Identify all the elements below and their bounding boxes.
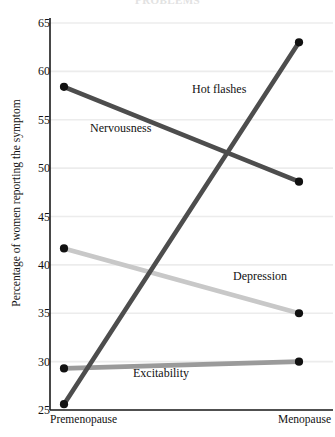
series-line-hot-flashes xyxy=(64,42,299,404)
datapoint-depression-premenopause xyxy=(60,244,68,252)
datapoint-excitability-menopause xyxy=(295,358,303,366)
datapoint-depression-menopause xyxy=(295,309,303,317)
series-label-excitability: Excitability xyxy=(133,366,189,381)
datapoint-excitability-premenopause xyxy=(60,364,68,372)
datapoint-hot-flashes-premenopause xyxy=(60,400,68,408)
x-axis-label-premenopause: Premenopause xyxy=(50,413,117,425)
chart-container: PROBLEMS Percentage of women reporting t… xyxy=(0,0,335,437)
datapoint-nervousness-premenopause xyxy=(60,83,68,91)
series-label-nervousness: Nervousness xyxy=(90,121,151,136)
series-label-hot-flashes: Hot flashes xyxy=(192,82,246,97)
datapoint-hot-flashes-menopause xyxy=(295,38,303,46)
datapoint-nervousness-menopause xyxy=(295,178,303,186)
series-label-depression: Depression xyxy=(233,269,287,284)
x-axis-label-menopause: Menopause xyxy=(278,413,331,425)
